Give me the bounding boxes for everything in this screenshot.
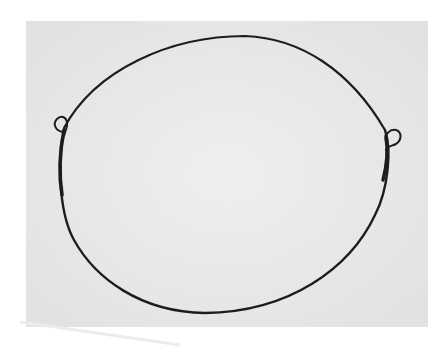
wire-loop-photo	[0, 0, 445, 347]
paper-background	[26, 21, 428, 327]
photo-frame	[0, 0, 445, 347]
